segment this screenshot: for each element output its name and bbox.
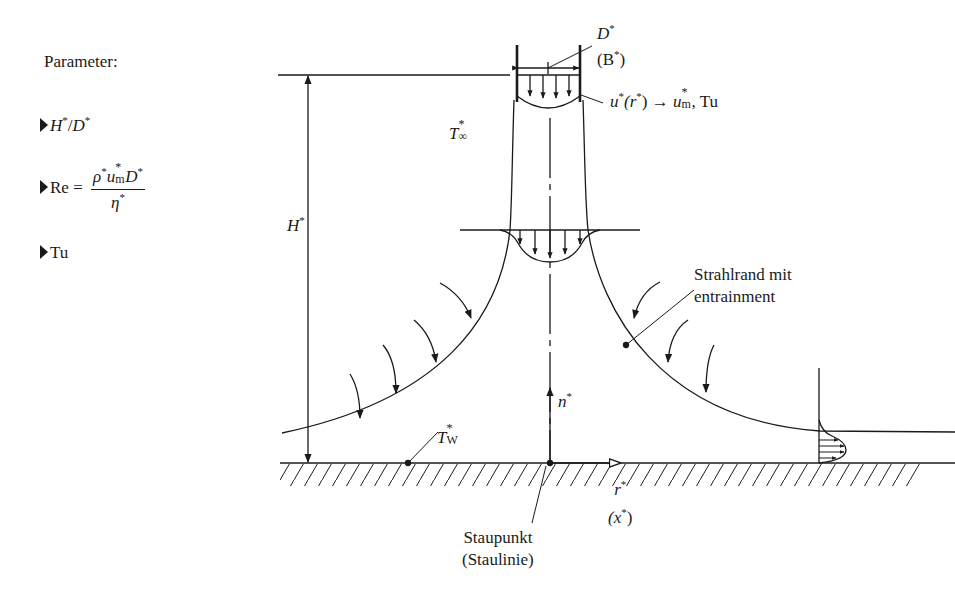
- mean-velocity-symbol: u: [673, 92, 682, 111]
- label-nozzle-width: D* (B*): [597, 18, 625, 70]
- wall-subscript: W: [446, 433, 457, 448]
- right-arrow-icon: →: [652, 92, 669, 111]
- radius-close: ): [642, 92, 648, 111]
- temperature-symbol: T: [437, 428, 446, 447]
- height-symbol: H: [287, 216, 299, 235]
- mean-subscript: m: [681, 97, 690, 112]
- width-alt-close: ): [620, 50, 626, 69]
- star-superscript: *: [621, 478, 627, 490]
- stagnation-line1: Staupunkt: [463, 528, 532, 547]
- nozzle: [517, 45, 603, 108]
- normal-symbol: n: [558, 392, 567, 411]
- radial-symbol: r: [614, 480, 621, 499]
- radial-alt-close: ): [627, 508, 633, 527]
- infinity-subscript: ∞: [458, 129, 467, 144]
- jet-edge-line1: Strahlrand mit: [694, 265, 792, 284]
- stagnation-line2: (Staulinie): [462, 550, 534, 569]
- radius-open: (r: [624, 92, 636, 111]
- diameter-symbol: D: [597, 24, 609, 43]
- label-inlet-profile: u*(r*) → u*m, Tu: [610, 90, 718, 112]
- supsub: *m: [681, 97, 691, 107]
- label-wall-temp: T*W: [437, 428, 456, 448]
- star-superscript: *: [567, 390, 573, 402]
- label-normal-coord: n*: [558, 390, 572, 412]
- label-radial-coord: r* (x*): [608, 473, 632, 529]
- label-ambient-temp: T*∞: [449, 124, 468, 144]
- turbulence-tail: , Tu: [691, 92, 717, 111]
- width-alt: (B*): [597, 50, 625, 69]
- radial-alt-open: (x: [608, 508, 621, 527]
- label-jet-edge: Strahlrand mit entrainment: [694, 264, 792, 308]
- label-height: H*: [287, 214, 305, 236]
- temperature-symbol: T: [449, 124, 458, 143]
- supsub: *∞: [458, 129, 468, 139]
- impinging-jet-diagram: [0, 0, 955, 601]
- width-alt-open: (B: [597, 50, 614, 69]
- star-superscript: *: [299, 214, 305, 226]
- velocity-symbol: u: [610, 92, 619, 111]
- jet-edge-line2: entrainment: [694, 287, 775, 306]
- star-superscript: *: [609, 22, 615, 34]
- label-stagnation: Staupunkt (Staulinie): [462, 527, 534, 571]
- supsub: *W: [446, 433, 456, 443]
